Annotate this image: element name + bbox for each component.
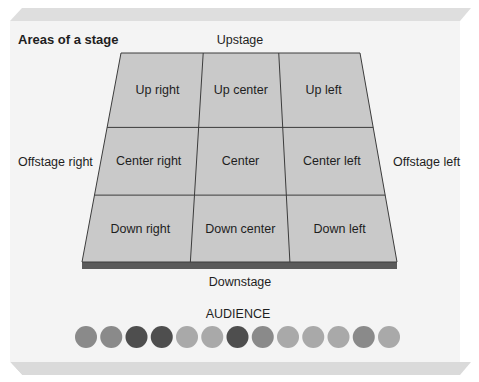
audience-member [277,326,299,348]
cell-down-right: Down right [110,222,170,236]
panel-bottom-band [10,362,471,375]
stage-areas-diagram: Areas of a stage Upstage Offstage right … [0,0,479,382]
audience-member [151,326,173,348]
upstage-label: Upstage [217,33,264,47]
cell-down-left: Down left [314,222,367,236]
stage: Up rightUp centerUp leftCenter rightCent… [82,53,397,269]
offstage-left-label: Offstage left [393,155,461,169]
diagram-title: Areas of a stage [18,32,118,47]
audience-member [176,326,198,348]
cell-center-left: Center left [303,154,361,168]
audience-member [353,326,375,348]
offstage-right-label: Offstage right [18,155,93,169]
audience-member [100,326,122,348]
panel-top-band [10,8,471,21]
audience-member [201,326,223,348]
audience-member [126,326,148,348]
cell-up-center: Up center [214,83,268,97]
audience-label: AUDIENCE [206,307,271,321]
audience-member [328,326,350,348]
audience-member [378,326,400,348]
audience-member [302,326,324,348]
audience-member [252,326,274,348]
cell-down-center: Down center [205,222,275,236]
cell-up-left: Up left [306,83,343,97]
stage-front-edge [82,262,397,269]
downstage-label: Downstage [209,275,272,289]
audience-member [75,326,97,348]
cell-up-right: Up right [136,83,180,97]
cell-center-right: Center right [116,154,182,168]
audience-member [227,326,249,348]
cell-center: Center [222,154,260,168]
